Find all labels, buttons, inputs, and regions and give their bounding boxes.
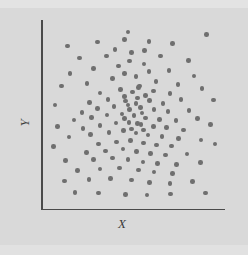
data-point xyxy=(122,116,127,121)
data-point xyxy=(169,144,174,149)
data-point xyxy=(141,141,146,146)
data-point xyxy=(195,116,200,121)
data-point xyxy=(170,171,175,176)
data-point xyxy=(112,104,117,109)
data-point xyxy=(110,156,115,161)
data-point xyxy=(141,128,146,133)
data-point xyxy=(135,96,140,101)
data-point xyxy=(59,84,64,89)
data-point xyxy=(160,134,165,139)
data-point xyxy=(113,47,118,52)
data-point xyxy=(62,179,67,184)
data-point xyxy=(130,90,135,95)
data-point xyxy=(155,161,160,166)
data-point xyxy=(157,117,162,122)
data-point xyxy=(198,160,203,165)
data-point xyxy=(147,98,152,103)
data-point xyxy=(73,190,78,195)
data-point xyxy=(148,151,153,156)
data-point xyxy=(211,98,216,103)
data-point xyxy=(151,124,156,129)
data-point xyxy=(142,62,147,67)
y-axis-line xyxy=(41,20,43,210)
data-point xyxy=(118,87,123,92)
data-point xyxy=(96,191,101,196)
data-point xyxy=(88,132,93,137)
data-point xyxy=(65,44,70,49)
data-point xyxy=(106,97,111,102)
data-point xyxy=(152,170,157,175)
data-point xyxy=(168,192,173,197)
data-point xyxy=(129,127,134,132)
data-point xyxy=(192,74,197,79)
data-point xyxy=(186,58,191,63)
data-point xyxy=(129,50,134,55)
data-point xyxy=(135,121,140,126)
data-point xyxy=(151,89,156,94)
data-point xyxy=(168,181,173,186)
data-point xyxy=(187,108,192,113)
data-point xyxy=(204,32,209,37)
data-point xyxy=(147,69,152,74)
data-point xyxy=(67,135,72,140)
data-point xyxy=(143,116,148,121)
data-point xyxy=(96,142,101,147)
data-point xyxy=(95,106,100,111)
data-point xyxy=(134,131,139,136)
data-point xyxy=(81,126,86,131)
data-point xyxy=(128,138,133,143)
data-point xyxy=(147,39,152,44)
data-point xyxy=(110,76,115,81)
data-point xyxy=(166,109,171,114)
data-point xyxy=(114,140,119,145)
data-point xyxy=(126,157,131,162)
data-point xyxy=(142,48,147,53)
data-point xyxy=(213,142,218,147)
data-point xyxy=(158,54,163,59)
data-point xyxy=(127,120,132,125)
data-point xyxy=(77,56,82,61)
data-point xyxy=(146,133,151,138)
x-axis-line xyxy=(41,209,225,211)
data-point xyxy=(203,191,208,196)
data-point xyxy=(147,180,152,185)
data-point xyxy=(185,152,190,157)
data-point xyxy=(132,113,137,118)
data-point xyxy=(136,168,141,173)
data-point xyxy=(167,68,172,73)
data-point xyxy=(72,118,77,123)
data-point xyxy=(168,91,173,96)
data-point xyxy=(117,166,122,171)
data-point xyxy=(98,91,103,96)
data-point xyxy=(80,110,85,115)
data-point xyxy=(89,115,94,120)
data-point xyxy=(163,153,168,158)
x-axis-label: X xyxy=(118,216,126,232)
data-point xyxy=(176,136,181,141)
data-point xyxy=(122,71,127,76)
data-point xyxy=(138,105,143,110)
data-point xyxy=(87,100,92,105)
data-point xyxy=(134,74,139,79)
data-point xyxy=(174,162,179,167)
y-axis-label: Y xyxy=(17,119,33,126)
data-point xyxy=(116,64,121,69)
data-point xyxy=(154,143,159,148)
data-point xyxy=(75,168,80,173)
data-point xyxy=(98,167,103,172)
data-point xyxy=(91,66,96,71)
data-point xyxy=(55,124,60,129)
data-point xyxy=(141,160,146,165)
data-point xyxy=(176,82,181,87)
data-point xyxy=(127,59,132,64)
data-point xyxy=(84,150,89,155)
data-point xyxy=(91,157,96,162)
data-point xyxy=(208,122,213,127)
data-point xyxy=(105,113,110,118)
data-point xyxy=(114,121,119,126)
data-point xyxy=(63,158,68,163)
data-point xyxy=(108,176,113,181)
data-point xyxy=(122,37,127,42)
data-point xyxy=(152,107,157,112)
data-point xyxy=(199,138,204,143)
